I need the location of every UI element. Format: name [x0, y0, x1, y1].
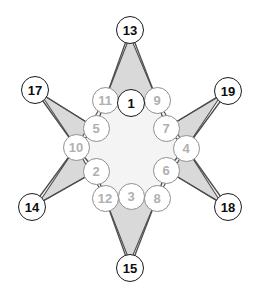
node-label: 6: [162, 164, 169, 177]
node-15[interactable]: 15: [116, 254, 144, 282]
star-graph-figure: 131719141815111957104261283: [0, 0, 260, 296]
node-5[interactable]: 5: [83, 115, 110, 142]
node-label: 3: [127, 190, 134, 203]
node-label: 1: [127, 97, 134, 110]
node-label: 19: [221, 85, 235, 98]
node-label: 17: [28, 84, 42, 97]
node-12[interactable]: 12: [92, 185, 119, 212]
node-label: 4: [182, 142, 189, 155]
node-2[interactable]: 2: [83, 158, 110, 185]
node-label: 11: [98, 94, 112, 107]
node-18[interactable]: 18: [214, 193, 242, 221]
node-1[interactable]: 1: [117, 89, 145, 117]
node-label: 15: [123, 262, 137, 275]
node-label: 7: [162, 122, 169, 135]
star-shape-layer: [0, 0, 260, 296]
node-label: 9: [153, 94, 160, 107]
node-13[interactable]: 13: [116, 16, 144, 44]
node-label: 12: [98, 192, 112, 205]
node-11[interactable]: 11: [92, 87, 119, 114]
node-10[interactable]: 10: [63, 134, 90, 161]
node-label: 2: [92, 165, 99, 178]
node-4[interactable]: 4: [173, 135, 200, 162]
node-label: 18: [221, 201, 235, 214]
node-label: 5: [92, 122, 99, 135]
node-label: 13: [123, 24, 137, 37]
node-14[interactable]: 14: [18, 193, 46, 221]
node-6[interactable]: 6: [153, 157, 180, 184]
node-9[interactable]: 9: [144, 87, 171, 114]
node-7[interactable]: 7: [153, 115, 180, 142]
node-label: 8: [153, 192, 160, 205]
node-label: 10: [69, 141, 83, 154]
node-3[interactable]: 3: [118, 183, 145, 210]
node-19[interactable]: 19: [214, 77, 242, 105]
node-8[interactable]: 8: [144, 185, 171, 212]
node-label: 14: [25, 201, 39, 214]
node-17[interactable]: 17: [21, 76, 49, 104]
